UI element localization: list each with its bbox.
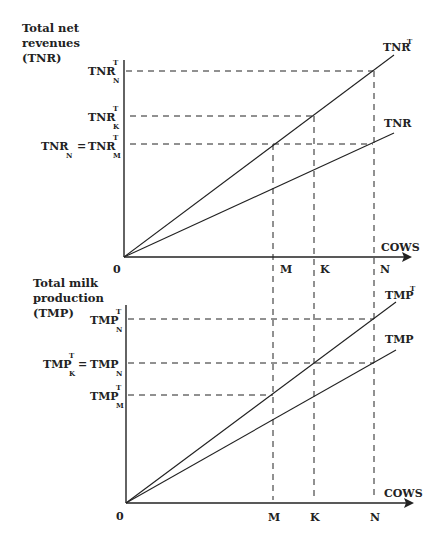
- top-title-line-1: Total net: [22, 21, 80, 35]
- top-x-axis-label: COWS: [381, 241, 420, 254]
- svg-text:T: T: [410, 284, 416, 293]
- bottom-curve-tmp: [126, 350, 396, 503]
- svg-text:=: =: [78, 358, 87, 371]
- top-panel: Total net revenues (TNR) COWS 0 M K N TN…: [22, 21, 420, 500]
- svg-text:T: T: [69, 351, 75, 360]
- top-title-line-3: (TNR): [22, 51, 62, 65]
- bottom-curve-label-tmp-t: TMP T: [385, 284, 416, 302]
- bottom-y-label-tmp-t-n: TMP T N: [90, 307, 123, 334]
- svg-text:N: N: [116, 325, 123, 334]
- bottom-x-tick-m: M: [268, 511, 280, 524]
- svg-text:TMP: TMP: [90, 314, 119, 327]
- top-x-tick-k: K: [320, 263, 330, 276]
- top-y-label-tnr-t-n: TNR T N: [88, 58, 120, 85]
- svg-text:T: T: [113, 133, 119, 142]
- top-y-label-tnr-t-k: TNR T K: [88, 104, 120, 131]
- bottom-curve-tmp-t: [126, 302, 396, 503]
- svg-text:N: N: [113, 76, 120, 85]
- svg-text:TMP: TMP: [90, 358, 119, 371]
- bottom-x-tick-n: N: [370, 511, 380, 524]
- top-curve-label-tnr-t: TNR T: [383, 37, 413, 54]
- svg-text:T: T: [113, 104, 119, 113]
- svg-text:K: K: [113, 122, 120, 131]
- top-x-tick-n: N: [380, 263, 390, 276]
- bottom-x-axis-label: COWS: [384, 487, 423, 500]
- bottom-title-line-1: Total milk: [33, 276, 99, 290]
- bottom-y-label-tmp-t-m: TMP T M: [90, 383, 124, 410]
- top-curve-tnr-t: [124, 55, 394, 257]
- top-y-label-tnr-n-eq-tnr-t-m: TNR N = TNR T M: [41, 133, 121, 160]
- top-origin-label: 0: [113, 263, 121, 276]
- svg-text:M: M: [113, 151, 121, 160]
- svg-text:TNR: TNR: [88, 111, 116, 124]
- bottom-y-label-tmp-t-k-eq-tmp-n: TMP T K = TMP N: [43, 351, 123, 378]
- svg-text:K: K: [69, 369, 76, 378]
- svg-text:TNR: TNR: [41, 140, 69, 153]
- svg-text:TMP: TMP: [43, 358, 72, 371]
- bottom-title-line-3: (TMP): [33, 306, 74, 320]
- svg-text:T: T: [116, 383, 122, 392]
- svg-text:N: N: [116, 369, 123, 378]
- top-x-tick-m: M: [280, 263, 292, 276]
- svg-text:N: N: [66, 151, 73, 160]
- bottom-curve-label-tmp: TMP: [385, 333, 414, 346]
- top-curve-label-tnr: TNR: [384, 117, 412, 130]
- svg-text:=: =: [77, 140, 86, 153]
- bottom-x-tick-k: K: [310, 511, 320, 524]
- svg-text:TNR: TNR: [88, 140, 116, 153]
- svg-text:TMP: TMP: [90, 390, 119, 403]
- svg-text:T: T: [407, 37, 413, 46]
- top-curve-tnr: [124, 133, 394, 257]
- svg-text:M: M: [116, 401, 124, 410]
- bottom-origin-label: 0: [116, 510, 124, 523]
- top-title-line-2: revenues: [22, 36, 80, 50]
- bottom-panel: Total milk production (TMP) COWS 0 M K N…: [33, 276, 423, 524]
- svg-text:T: T: [116, 307, 122, 316]
- svg-text:TNR: TNR: [88, 65, 116, 78]
- bottom-title-line-2: production: [33, 291, 105, 305]
- svg-text:T: T: [113, 58, 119, 67]
- diagram: Total net revenues (TNR) COWS 0 M K N TN…: [0, 0, 439, 543]
